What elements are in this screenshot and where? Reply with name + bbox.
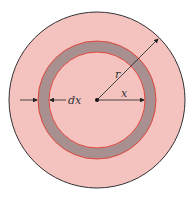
label-r: r	[115, 68, 121, 81]
annulus-diagram: r x dx	[0, 0, 194, 199]
label-dx: dx	[68, 94, 82, 107]
label-x: x	[121, 87, 128, 100]
